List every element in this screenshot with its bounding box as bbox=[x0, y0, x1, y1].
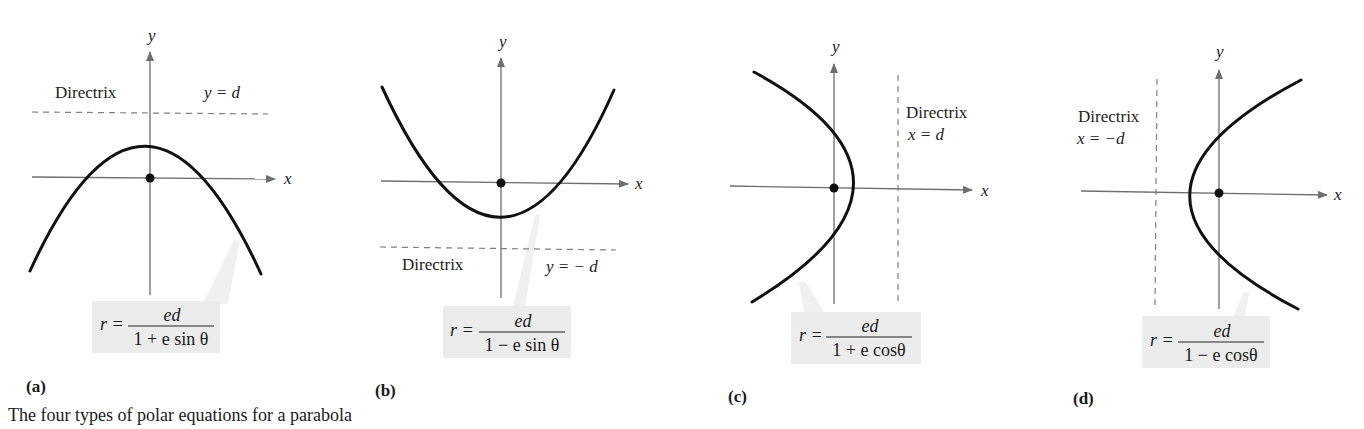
focus-point bbox=[146, 174, 155, 183]
x-axis-label: x bbox=[634, 174, 643, 193]
directrix-label: Directrix bbox=[906, 103, 968, 122]
focus-point bbox=[830, 184, 839, 193]
equation-denominator: 1 − e sin θ bbox=[485, 335, 560, 355]
equation-numerator: ed bbox=[164, 305, 182, 325]
x-axis bbox=[1081, 191, 1327, 195]
callout-pointer bbox=[1233, 292, 1249, 318]
equation-lhs: r = bbox=[450, 320, 474, 340]
equation-numerator: ed bbox=[515, 311, 533, 331]
panel-d: y x Directrix x = −d r = ed 1 − e cosθ (… bbox=[1073, 42, 1342, 408]
directrix-equation: y = − d bbox=[544, 257, 598, 276]
directrix-label: Directrix bbox=[1078, 107, 1140, 126]
focus-point bbox=[497, 179, 506, 188]
x-axis bbox=[730, 186, 972, 190]
equation-denominator: 1 − e cosθ bbox=[1184, 345, 1257, 365]
x-axis-label: x bbox=[1333, 185, 1342, 204]
panel-tag: (a) bbox=[26, 377, 46, 396]
y-axis-label: y bbox=[146, 26, 156, 45]
x-axis-label: x bbox=[283, 169, 292, 188]
panel-tag: (b) bbox=[375, 381, 396, 400]
equation-lhs: r = bbox=[799, 325, 823, 345]
parabola-figure: y x Directrix y = d r = ed 1 + e sin θ (… bbox=[0, 0, 1364, 429]
directrix-line bbox=[380, 247, 616, 250]
directrix-equation: y = d bbox=[202, 83, 241, 102]
focus-point bbox=[1215, 189, 1224, 198]
y-axis-label: y bbox=[497, 32, 507, 51]
directrix-label: Directrix bbox=[402, 255, 464, 274]
equation-lhs: r = bbox=[1150, 330, 1174, 350]
parabola-curve bbox=[382, 87, 614, 217]
panel-tag: (d) bbox=[1073, 389, 1094, 408]
callout-pointer bbox=[203, 240, 240, 304]
panel-tag: (c) bbox=[728, 387, 747, 406]
parabola-curve bbox=[30, 146, 261, 274]
equation-denominator: 1 + e sin θ bbox=[134, 329, 209, 349]
equation-lhs: r = bbox=[100, 314, 124, 334]
equation-numerator: ed bbox=[862, 316, 880, 336]
y-axis-label: y bbox=[830, 37, 840, 56]
directrix-label: Directrix bbox=[55, 83, 117, 102]
callout-pointer bbox=[513, 215, 540, 307]
figure-caption: The four types of polar equations for a … bbox=[8, 405, 352, 425]
equation-denominator: 1 + e cosθ bbox=[832, 340, 905, 360]
panel-b: y x Directrix y = − d r = ed 1 − e sin θ… bbox=[375, 32, 643, 400]
panel-a: y x Directrix y = d r = ed 1 + e sin θ (… bbox=[26, 26, 292, 396]
directrix-equation: x = d bbox=[907, 125, 945, 144]
callout-pointer bbox=[799, 282, 824, 312]
panel-c: y x Directrix x = d r = ed 1 + e cosθ (c… bbox=[728, 37, 989, 406]
directrix-equation: x = −d bbox=[1076, 129, 1125, 148]
x-axis-label: x bbox=[980, 181, 989, 200]
equation-numerator: ed bbox=[1214, 321, 1232, 341]
y-axis-label: y bbox=[1214, 42, 1224, 61]
